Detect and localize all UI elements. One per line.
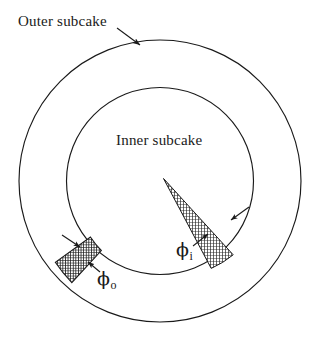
phi-o-symbol: ϕ <box>97 267 110 289</box>
phi-i-symbol: ϕ <box>176 238 189 260</box>
subcake-diagram <box>0 0 331 343</box>
inner-wedge <box>164 179 234 269</box>
outer-subcake-leader-line <box>117 28 140 45</box>
outer-wedge-arrow-top <box>62 235 80 247</box>
phi-i-label: ϕi <box>176 240 193 262</box>
phi-o-subscript: o <box>110 278 117 292</box>
outer-circle <box>19 40 301 322</box>
outer-subcake-label: Outer subcake <box>18 14 107 29</box>
phi-i-subscript: i <box>189 249 193 263</box>
inner-subcake-label: Inner subcake <box>116 133 202 148</box>
phi-o-label: ϕo <box>97 269 116 291</box>
outer-wedge <box>55 237 101 283</box>
